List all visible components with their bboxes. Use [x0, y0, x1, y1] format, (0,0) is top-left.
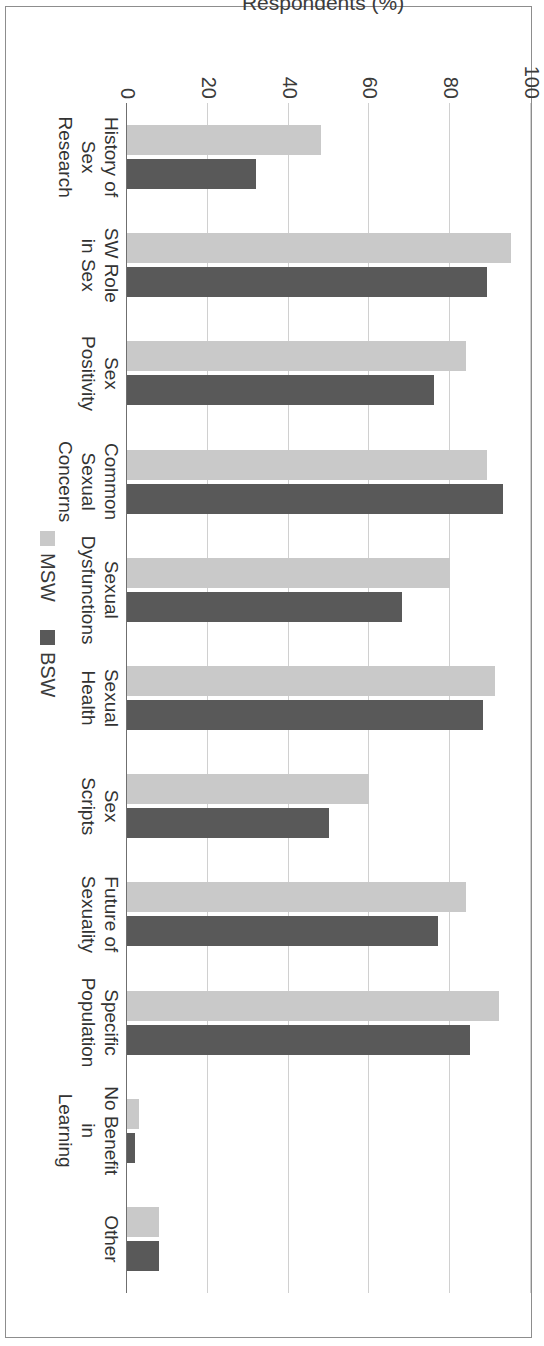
category-label: History of Sex Research: [54, 103, 123, 211]
bar-bsw: [127, 1133, 135, 1163]
bar-msw: [127, 774, 369, 804]
bar-group: Future of Sexuality: [127, 860, 531, 968]
bar-bsw: [127, 700, 483, 730]
y-axis-tick-label: 60: [358, 39, 381, 99]
category-label: Sexual Dysfunctions: [77, 536, 123, 644]
category-label: Future of Sexuality: [77, 860, 123, 968]
y-axis-tick-label: 0: [116, 39, 139, 99]
bar-bsw: [127, 1241, 159, 1271]
bar-msw: [127, 882, 466, 912]
bar-msw: [127, 558, 450, 588]
legend-item-msw: MSW: [36, 531, 59, 602]
bar-msw: [127, 1207, 159, 1237]
chart-frame: 020406080100Respondents (%)History of Se…: [5, 6, 532, 1338]
bar-bsw: [127, 267, 487, 297]
bar-bsw: [127, 1025, 470, 1055]
bar-msw: [127, 233, 511, 263]
bar-msw: [127, 991, 499, 1021]
y-axis-tick-label: 40: [277, 39, 300, 99]
legend-swatch-icon: [40, 531, 55, 546]
category-label: Common Sexual Concerns: [54, 428, 123, 536]
bar-bsw: [127, 916, 438, 946]
category-label: SW Role in Sex: [77, 211, 123, 319]
category-label: No Benefit in Learning: [54, 1077, 123, 1185]
bar-group: Sexual Dysfunctions: [127, 536, 531, 644]
category-label: Sex Scripts: [77, 752, 123, 860]
bar-bsw: [127, 159, 256, 189]
bar-group: Common Sexual Concerns: [127, 428, 531, 536]
category-label: Sexual Health: [77, 644, 123, 752]
bar-group: Other: [127, 1185, 531, 1293]
bar-bsw: [127, 808, 329, 838]
legend-swatch-icon: [40, 630, 55, 645]
bar-msw: [127, 666, 495, 696]
bar-group: Specific Population: [127, 968, 531, 1076]
bar-group: SW Role in Sex: [127, 211, 531, 319]
bar-msw: [127, 341, 466, 371]
legend-label: MSW: [36, 553, 59, 602]
category-label: Sex Positivity: [77, 319, 123, 427]
bar-group: Sexual Health: [127, 644, 531, 752]
legend-label: BSW: [36, 652, 59, 698]
chart-legend: MSWBSW: [36, 531, 59, 697]
bar-bsw: [127, 484, 503, 514]
bar-group: Sex Positivity: [127, 319, 531, 427]
category-label: Specific Population: [77, 968, 123, 1076]
bar-group: Sex Scripts: [127, 752, 531, 860]
rotated-chart-host: 020406080100Respondents (%)History of Se…: [6, 7, 544, 1346]
y-axis-title: Respondents (%): [121, 0, 525, 15]
y-axis-tick-label: 80: [439, 39, 462, 99]
bar-bsw: [127, 375, 434, 405]
bar-msw: [127, 125, 321, 155]
bar-msw: [127, 450, 487, 480]
plot-area: 020406080100Respondents (%)History of Se…: [127, 103, 531, 1293]
y-axis-tick-label: 100: [520, 39, 543, 99]
bar-group: No Benefit in Learning: [127, 1077, 531, 1185]
bar-group: History of Sex Research: [127, 103, 531, 211]
bar-msw: [127, 1099, 139, 1129]
legend-item-bsw: BSW: [36, 630, 59, 698]
y-axis-tick-label: 20: [196, 39, 219, 99]
bar-bsw: [127, 592, 402, 622]
category-label: Other: [100, 1185, 123, 1293]
bar-chart: 020406080100Respondents (%)History of Se…: [6, 7, 544, 1346]
